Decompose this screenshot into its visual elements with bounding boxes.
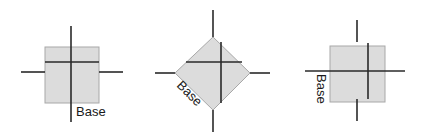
base-label: Base	[76, 104, 106, 119]
square-shape	[330, 46, 385, 102]
base-orientation-diagram: Base Base Base	[0, 0, 425, 139]
figure-sideways-square: Base	[305, 20, 405, 121]
square-shape	[45, 47, 99, 103]
figure-upright-square: Base	[21, 26, 123, 122]
figure-diamond: Base	[155, 10, 270, 132]
base-label: Base	[314, 74, 329, 104]
